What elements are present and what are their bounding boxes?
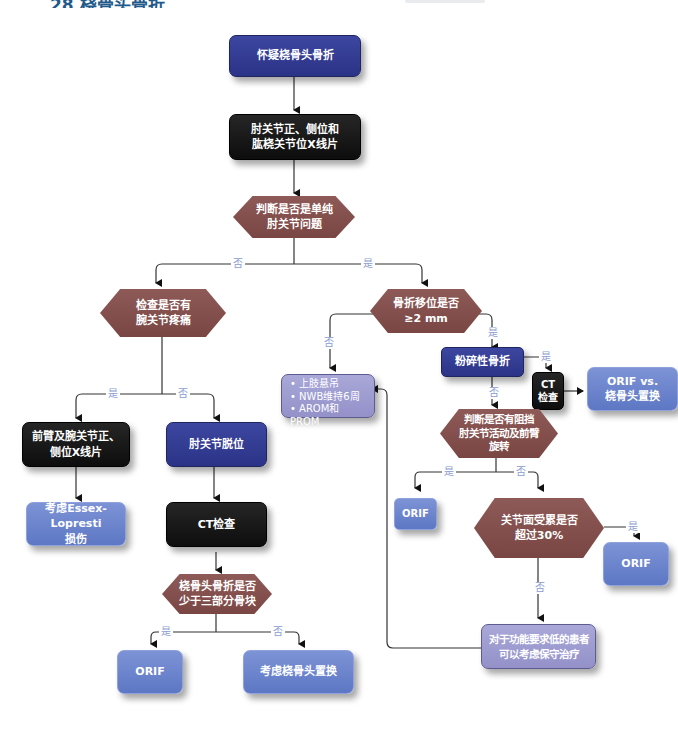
outcome-orif-mid: ORIF: [394, 498, 437, 530]
edge-label-three-no: 否: [271, 626, 285, 638]
edge-label-three-yes: 是: [159, 626, 173, 638]
outcome-radial-head-replacement: 考虑桡骨头置换: [243, 650, 354, 694]
decision-displacement-2mm: 骨折移位是否 ≥2 mm: [370, 289, 482, 333]
process-ct-left: CT检查: [166, 502, 267, 547]
outcome-orif-vs-replacement: ORIF vs. 桡骨头置换: [587, 367, 678, 411]
treatment-conservative: • 上肢悬吊 • NWB维持6周 • AROM和PROM 活动: [281, 374, 375, 418]
node-label: 骨折移位是否 ≥2 mm: [393, 296, 459, 327]
conservative-item: • 上肢悬吊: [290, 378, 366, 391]
node-label: CT检查: [198, 517, 236, 532]
node-label: 考虑桡骨头置换: [260, 664, 337, 679]
node-label: CT 检查: [538, 378, 558, 404]
node-label: 怀疑桡骨头骨折: [257, 48, 334, 63]
edge-label-block-yes: 是: [442, 466, 456, 478]
decision-mechanical-block: 判断是否有阻挡 肘关节活动及前臂 旋转: [440, 409, 558, 458]
edge-label-isolated-yes: 是: [361, 258, 375, 270]
edge-label-surface-no: 否: [533, 582, 547, 594]
process-forearm-wrist-xray: 前臂及腕关节正、 侧位X线片: [22, 422, 130, 467]
process-ct-right: CT 检查: [532, 372, 564, 410]
decision-articular-surface-30: 关节面受累是否 超过30%: [474, 498, 604, 558]
process-elbow-xray: 肘关节正、侧位和 肱桡关节位X线片: [229, 114, 361, 160]
decision-fewer-than-three-parts: 桡骨头骨折是否 少于三部分骨块: [162, 574, 272, 614]
node-label: ORIF: [402, 507, 429, 521]
node-label: ORIF: [621, 556, 650, 571]
node-label: 桡骨头骨折是否 少于三部分骨块: [179, 579, 256, 610]
edge-label-displacement-yes: 是: [486, 327, 500, 339]
treatment-low-demand-conservative: 对于功能要求低的患者 可以考虑保守治疗: [481, 624, 596, 669]
node-label: 关节面受累是否 超过30%: [501, 513, 578, 544]
node-label: 对于功能要求低的患者 可以考虑保守治疗: [489, 632, 589, 661]
node-label: 考虑Essex-Lopresti 损伤: [31, 501, 121, 547]
node-label: 前臂及腕关节正、 侧位X线片: [32, 429, 120, 460]
edge-label-surface-yes: 是: [626, 521, 640, 533]
edge-label-isolated-no: 否: [231, 258, 245, 270]
edge-label-block-no: 否: [514, 466, 528, 478]
start-suspected-radial-head-fracture: 怀疑桡骨头骨折: [229, 35, 361, 77]
edge-label-comminuted-no: 否: [487, 387, 501, 399]
node-label: 粉碎性骨折: [455, 354, 510, 369]
outcome-essex-lopresti: 考虑Essex-Lopresti 损伤: [26, 502, 126, 546]
conservative-item: • AROM和PROM 活动: [290, 403, 366, 441]
node-label: ORIF: [135, 664, 164, 679]
decision-wrist-pain: 检查是否有 腕关节疼痛: [100, 289, 226, 337]
process-elbow-dislocation: 肘关节脱位: [166, 422, 267, 467]
node-label: 判断是否是单纯 肘关节问题: [256, 202, 333, 233]
node-label: 肘关节脱位: [189, 437, 244, 452]
connector-lines: [0, 0, 678, 731]
edge-label-displacement-no: 否: [322, 337, 336, 349]
edge-label-wrist-yes: 是: [106, 388, 120, 400]
node-label: ORIF vs. 桡骨头置换: [605, 374, 660, 405]
process-comminuted-fracture: 粉碎性骨折: [441, 347, 524, 377]
outcome-orif-bottom-left: ORIF: [117, 650, 183, 694]
edge-label-wrist-no: 否: [176, 388, 190, 400]
node-label: 检查是否有 腕关节疼痛: [136, 298, 191, 329]
decision-isolated-elbow: 判断是否是单纯 肘关节问题: [233, 196, 355, 238]
node-label: 肘关节正、侧位和 肱桡关节位X线片: [251, 122, 339, 153]
outcome-orif-right: ORIF: [603, 542, 669, 586]
node-label: 判断是否有阻挡 肘关节活动及前臂 旋转: [459, 413, 539, 454]
conservative-item: • NWB维持6周: [290, 391, 366, 404]
edge-label-comminuted-yes: 是: [539, 351, 553, 363]
